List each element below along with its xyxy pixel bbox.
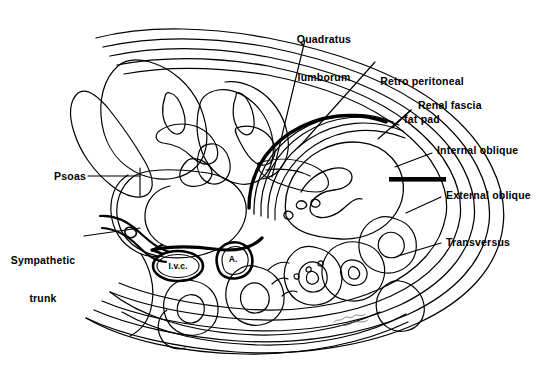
lower-abdominal-contours <box>86 254 408 354</box>
psoas-muscle-contour <box>145 186 170 247</box>
leader-external-oblique <box>406 197 441 213</box>
internal-oblique-marker-bar <box>389 177 446 182</box>
kidney-group <box>284 142 404 239</box>
bowel-mucosa-5 <box>177 295 204 323</box>
renal-calyx-1 <box>296 201 306 209</box>
bowel-loop-1 <box>322 242 385 301</box>
artist-signature-mark <box>334 314 368 327</box>
inner-label-aorta: A. <box>224 254 242 264</box>
bowel-mucosa-1 <box>341 260 368 285</box>
label-transversus: Transversus <box>446 236 510 249</box>
label-sympathetic-trunk-line2: trunk <box>2 292 84 305</box>
spinal-canal-left <box>163 93 186 134</box>
mesentery-dot-2 <box>306 267 311 272</box>
label-quadratus-lumborum-line1: Quadratus <box>280 33 368 46</box>
leader-internal-oblique <box>395 153 432 167</box>
label-sympathetic-trunk: Sympathetic trunk <box>2 229 84 329</box>
renal-vessel-dot <box>284 211 293 219</box>
label-renal-fascia: Renal fascia <box>418 99 482 112</box>
bowel-mucosa-fold-3 <box>306 271 318 284</box>
inner-label-ivc: I.v.c. <box>155 261 201 271</box>
flank-fold-2 <box>122 312 406 345</box>
diaphragmatic-crus <box>152 238 262 250</box>
label-quadratus-lumborum: Quadratus lumborum <box>280 8 368 108</box>
label-retro-peritoneal-fat-pad-line2: fat pad <box>370 113 474 126</box>
bowel-mucosa-fold-1 <box>348 267 359 280</box>
bowel-mucosa-2 <box>378 232 404 258</box>
erector-spinae-right-outer <box>225 82 288 179</box>
figure-canvas: Quadratus lumborum Retro peritoneal fat … <box>0 0 546 368</box>
psoas-muscle-left <box>111 175 167 257</box>
erector-spinae-right <box>197 90 273 185</box>
label-sympathetic-trunk-line1: Sympathetic <box>2 254 84 267</box>
bowel-loop-3 <box>284 247 342 306</box>
renal-calyx-2 <box>311 199 320 207</box>
label-internal-oblique: Internal oblique <box>437 144 518 157</box>
label-psoas: Psoas <box>16 170 86 183</box>
label-quadratus-lumborum-line2: lumborum <box>280 71 368 84</box>
bowel-mucosa-4 <box>241 283 270 313</box>
label-retro-peritoneal-fat-pad-line1: Retro peritoneal <box>370 75 474 88</box>
label-external-oblique: External oblique <box>446 189 531 202</box>
